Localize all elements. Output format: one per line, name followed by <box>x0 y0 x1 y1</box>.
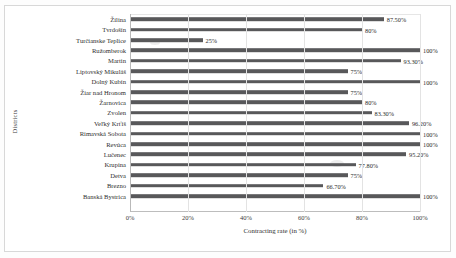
bar-track: 75% <box>130 87 438 97</box>
bar-track: 87.50% <box>130 14 438 24</box>
bar-row: Tvrdošín80% <box>18 24 438 34</box>
bar-track: 100% <box>130 128 438 138</box>
x-tick-label: 60% <box>298 214 310 221</box>
category-label: Detva <box>18 172 130 179</box>
bar-value-label: 25% <box>206 37 218 44</box>
bar <box>130 142 420 146</box>
category-label: Lučenec <box>18 151 130 158</box>
bar-track: 75% <box>130 170 438 180</box>
bar-row: Turčianske Teplice25% <box>18 35 438 45</box>
category-label: Martin <box>18 57 130 64</box>
bar-row: Ružomberok100% <box>18 45 438 55</box>
bar-value-label: 100% <box>423 193 438 200</box>
bar-row: Dolný Kubín100% <box>18 76 438 86</box>
bar-track: 93.30% <box>130 56 438 66</box>
x-tick-label: 0% <box>126 214 135 221</box>
bar-track: 100% <box>130 76 438 86</box>
bar-track: 100% <box>130 191 438 201</box>
bar-value-label: 100% <box>423 78 438 85</box>
bar-row: Martin93.30% <box>18 56 438 66</box>
bar-row: Rimavská Sobota100% <box>18 128 438 138</box>
bar <box>130 69 348 73</box>
category-label: Veľký Krťíš <box>18 120 130 127</box>
bar-value-label: 75% <box>351 172 363 179</box>
x-axis-title: Contracting rate (in %) <box>130 227 420 234</box>
bar-value-label: 83.30% <box>375 109 394 116</box>
bar-value-label: 80% <box>365 99 377 106</box>
category-label: Revúca <box>18 141 130 148</box>
bar <box>130 153 406 157</box>
bar-track: 66.70% <box>130 181 438 191</box>
bar-value-label: 96.20% <box>412 120 431 127</box>
bar-track: 80% <box>130 97 438 107</box>
bar <box>130 59 401 63</box>
bar <box>130 194 420 198</box>
bar-track: 77.80% <box>130 160 438 170</box>
category-label: Krupina <box>18 161 130 168</box>
y-axis-title: Districts <box>11 92 18 152</box>
x-tick-label: 100% <box>412 214 427 221</box>
category-label: Žilina <box>18 16 130 23</box>
bar <box>130 49 420 53</box>
bar-row: Liptovský Mikuláš75% <box>18 66 438 76</box>
bar <box>130 132 420 136</box>
category-label: Dolný Kubín <box>18 78 130 85</box>
bar-track: 100% <box>130 139 438 149</box>
bar-value-label: 100% <box>423 141 438 148</box>
bar-track: 100% <box>130 45 438 55</box>
bar <box>130 163 356 167</box>
bar-row: Banská Bystrica100% <box>18 191 438 201</box>
category-label: Liptovský Mikuláš <box>18 68 130 75</box>
bar-track: 83.30% <box>130 108 438 118</box>
bar-row: Žiar nad Hronom75% <box>18 87 438 97</box>
category-label: Zvolen <box>18 109 130 116</box>
bar-value-label: 93.30% <box>404 57 423 64</box>
bar-value-label: 77.80% <box>359 161 378 168</box>
bar-row: Zvolen83.30% <box>18 108 438 118</box>
bar-row: Lučenec95.20% <box>18 149 438 159</box>
bar <box>130 121 409 125</box>
bar-value-label: 100% <box>423 130 438 137</box>
category-label: Brezno <box>18 182 130 189</box>
bar-value-label: 75% <box>351 89 363 96</box>
x-tick-label: 20% <box>182 214 194 221</box>
bar-rows: Žilina87.50%Tvrdošín80%Turčianske Teplic… <box>18 14 438 212</box>
category-label: Žarnovica <box>18 99 130 106</box>
x-axis-ticks: 0%20%40%60%80%100% <box>130 214 420 226</box>
bar-row: Revúca100% <box>18 139 438 149</box>
bar <box>130 174 348 178</box>
bar-row: Veľký Krťíš96.20% <box>18 118 438 128</box>
bar <box>130 184 323 188</box>
bar <box>130 111 372 115</box>
bar-track: 80% <box>130 24 438 34</box>
bar-value-label: 95.20% <box>409 151 428 158</box>
category-label: Rimavská Sobota <box>18 130 130 137</box>
bar-value-label: 80% <box>365 26 377 33</box>
bar-track: 75% <box>130 66 438 76</box>
category-label: Žiar nad Hronom <box>18 89 130 96</box>
bar <box>130 17 384 21</box>
category-label: Banská Bystrica <box>18 193 130 200</box>
bar-value-label: 87.50% <box>387 16 406 23</box>
bar-row: Krupina77.80% <box>18 160 438 170</box>
bar-track: 25% <box>130 35 438 45</box>
bar-row: Detva75% <box>18 170 438 180</box>
bar <box>130 38 203 42</box>
bar-row: Žarnovica80% <box>18 97 438 107</box>
bar-value-label: 66.70% <box>326 182 345 189</box>
bar-value-label: 100% <box>423 47 438 54</box>
bar <box>130 28 362 32</box>
category-label: Turčianske Teplice <box>18 37 130 44</box>
bar-row: Žilina87.50% <box>18 14 438 24</box>
x-tick-label: 40% <box>240 214 252 221</box>
category-label: Ružomberok <box>18 47 130 54</box>
bar-track: 95.20% <box>130 149 438 159</box>
category-label: Tvrdošín <box>18 26 130 33</box>
bar-value-label: 75% <box>351 68 363 75</box>
bar <box>130 90 348 94</box>
bar <box>130 80 420 84</box>
bar <box>130 101 362 105</box>
bar-row: Brezno66.70% <box>18 181 438 191</box>
chart-figure: Districts Žilina87.50%Tvrdošín80%Turčian… <box>0 0 456 258</box>
bar-track: 96.20% <box>130 118 438 128</box>
